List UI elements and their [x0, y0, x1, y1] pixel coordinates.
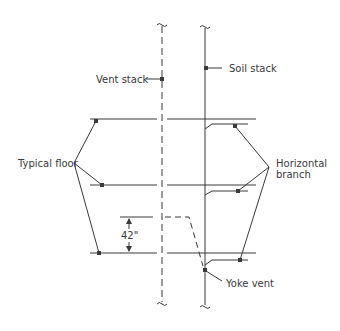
floor-2-dot	[100, 183, 104, 187]
horizontal-branch-label-2: branch	[276, 169, 311, 180]
typical-floor-leader-3	[74, 163, 99, 253]
soil-stack-bottom-break-icon	[200, 306, 210, 309]
soil-stack-label: Soil stack	[229, 63, 277, 74]
branch-2-dot	[236, 189, 240, 193]
floor-3-dot	[97, 251, 101, 255]
horizontal-branch-leader-3	[240, 167, 269, 260]
dimension-arrow-down-icon	[126, 246, 132, 252]
soil-stack-dot	[204, 66, 208, 70]
typical-floor-label: Typical floor	[18, 158, 78, 169]
horizontal-branch-1	[205, 124, 248, 129]
yoke-vent-dot	[203, 268, 207, 272]
yoke-vent-leader	[206, 271, 222, 281]
branch-3-dot	[238, 258, 242, 262]
yoke-vent-line	[165, 217, 203, 266]
horizontal-branch-2	[205, 191, 248, 195]
horizontal-branch-leader	[235, 126, 269, 191]
vent-stack-bottom-break-icon	[157, 303, 167, 306]
vent-stack-label: Vent stack	[96, 74, 148, 85]
branch-1-dot	[233, 124, 237, 128]
horizontal-branch-label-1: Horizontal	[276, 158, 327, 169]
dimension-label: 42"	[121, 230, 138, 241]
vent-stack-dot	[160, 77, 164, 81]
typical-floor-leader	[74, 121, 102, 185]
floor-1-dot	[94, 119, 98, 123]
dimension-arrow-up-icon	[126, 218, 132, 224]
yoke-vent-label: Yoke vent	[226, 278, 274, 289]
